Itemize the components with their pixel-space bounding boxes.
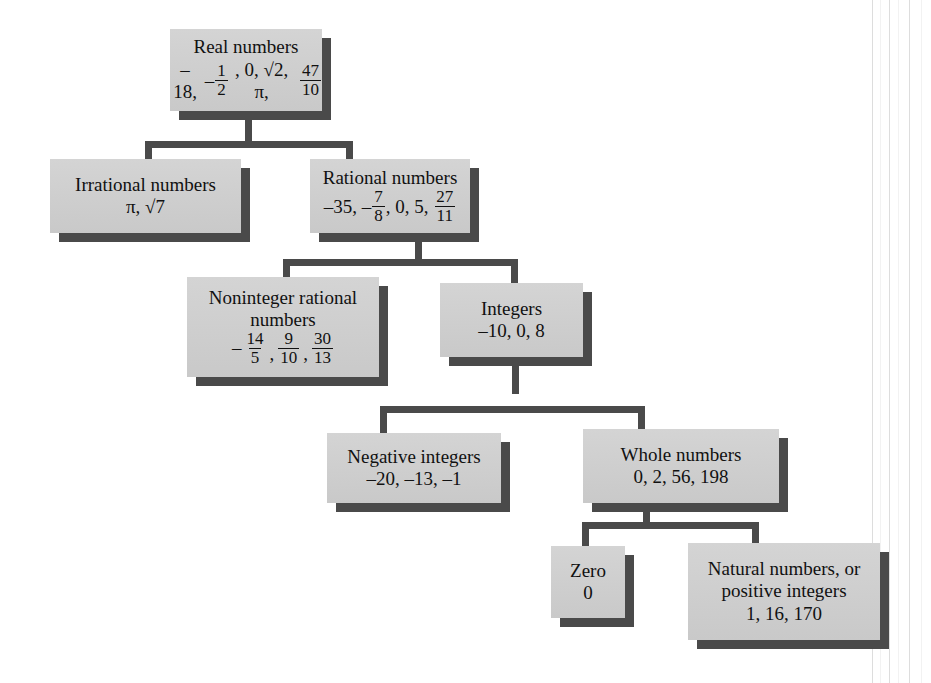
fraction-sign: – [205,70,215,92]
value-text: –35, [324,196,357,218]
box-shadow-bottom [336,503,510,512]
node-title: Rational numbers [323,167,458,189]
scan-artifact-line [909,0,910,683]
node-integers[interactable]: Integers –10, 0, 8 [440,283,583,357]
box-shadow-right [625,555,634,627]
value-separator: , [269,343,276,365]
fraction-numerator: 27 [434,188,455,205]
fraction-fourteen-fifths: 14 5 [245,330,266,366]
box-shadow-right [379,286,388,386]
box-shadow-right [583,292,592,366]
box-shadow-bottom [449,357,592,366]
scan-artifact-line [921,0,922,683]
fraction-forty-seven-tenths: 47 10 [300,62,321,98]
diagram-canvas: Real numbers –18, – 1 2 , 0, √2, π, 47 1… [0,0,931,683]
node-title: Zero [570,560,606,582]
fraction-twentyseven-elevenths: 27 11 [434,188,455,224]
scan-artifact-line [898,0,899,683]
node-noninteger-rational-numbers[interactable]: Noninteger rational numbers – 14 5 , 9 1… [187,277,379,377]
fraction-nine-tenths: 9 10 [278,330,299,366]
scan-artifact-line [889,0,890,683]
fraction-numerator: 14 [245,330,266,347]
node-values: – 14 5 , 9 10 , 30 13 [232,331,334,367]
edge-rational-bus [283,259,518,266]
fraction-numerator: 9 [283,330,296,347]
fraction-seven-eighths: 7 8 [372,188,385,224]
box-shadow-bottom [592,503,788,512]
box-shadow-bottom [560,618,634,627]
value-text: , 0, 5, [386,196,429,218]
node-title: Negative integers [347,446,480,468]
fraction-thirty-thirteenths: 30 13 [312,330,333,366]
node-negative-integers[interactable]: Negative integers –20, –13, –1 [327,433,501,503]
box-shadow-right [880,552,889,649]
fraction-denominator: 2 [215,80,228,98]
node-values: 1, 16, 170 [746,603,822,625]
node-title-line2: numbers [250,309,315,331]
edge-integers-bus [380,406,645,413]
fraction-numerator: 1 [215,62,228,79]
box-shadow-bottom [179,111,331,120]
fraction-numerator: 47 [300,62,321,79]
node-values: –10, 0, 8 [478,320,545,342]
node-values: –35, – 7 8 , 0, 5, 27 11 [324,189,457,225]
box-shadow-bottom [196,377,388,386]
node-title: Irrational numbers [75,174,216,196]
box-shadow-bottom [319,233,479,242]
edge-integers-stem [512,362,519,394]
node-zero[interactable]: Zero 0 [551,546,625,618]
fraction-denominator: 13 [312,348,333,366]
value-text: , 0, √2, π, [229,59,294,104]
edge-to-integers [511,259,518,283]
node-real-numbers[interactable]: Real numbers –18, – 1 2 , 0, √2, π, 47 1… [170,29,322,111]
fraction-denominator: 8 [372,206,385,224]
edge-real-bus [145,141,353,148]
node-values: –18, – 1 2 , 0, √2, π, 47 10 [170,59,322,104]
fraction-denominator: 10 [300,80,321,98]
node-title-line1: Natural numbers, or [708,558,860,580]
fraction-numerator: 7 [372,188,385,205]
fraction-sign: – [232,337,242,359]
node-values: –20, –13, –1 [367,468,462,490]
node-title: Integers [481,298,542,320]
fraction-one-half: 1 2 [215,62,228,98]
box-shadow-right [322,38,331,120]
node-title-line2: positive integers [721,580,846,602]
fraction-numerator: 30 [312,330,333,347]
box-shadow-right [241,168,250,242]
node-title-line1: Noninteger rational [209,287,357,309]
fraction-denominator: 5 [249,348,262,366]
box-shadow-bottom [59,233,250,242]
node-whole-numbers[interactable]: Whole numbers 0, 2, 56, 198 [583,429,779,503]
value-text: –18, [170,59,200,104]
node-values: π, √7 [126,196,165,218]
box-shadow-right [501,442,510,512]
fraction-sign: – [362,196,372,218]
fraction-denominator: 10 [278,348,299,366]
node-irrational-numbers[interactable]: Irrational numbers π, √7 [50,159,241,233]
node-title: Whole numbers [621,444,742,466]
edge-to-zero [582,522,589,546]
edge-whole-bus [582,522,759,529]
fraction-denominator: 11 [435,206,455,224]
node-rational-numbers[interactable]: Rational numbers –35, – 7 8 , 0, 5, 27 1… [310,159,470,233]
node-values: 0, 2, 56, 198 [634,466,729,488]
box-shadow-right [779,438,788,512]
box-shadow-right [470,168,479,242]
value-separator: , [302,343,309,365]
node-values: 0 [583,582,593,604]
box-shadow-bottom [697,640,889,649]
edge-to-negative-integers [380,406,387,433]
node-title: Real numbers [193,36,298,58]
node-natural-numbers[interactable]: Natural numbers, or positive integers 1,… [688,543,880,640]
